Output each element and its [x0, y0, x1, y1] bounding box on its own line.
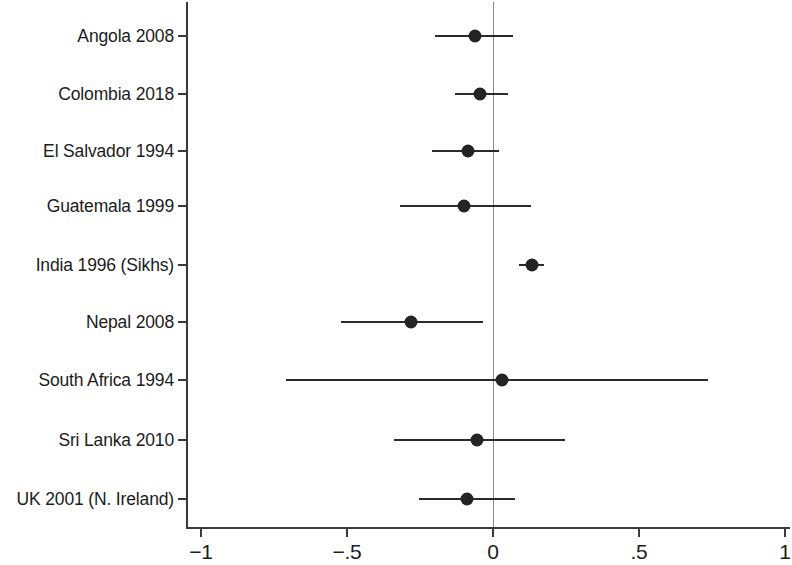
point-estimate-6: [495, 374, 508, 387]
zero-reference-line: [493, 2, 494, 527]
point-estimate-1: [473, 88, 486, 101]
y-axis-tick: [178, 439, 187, 441]
x-axis-tick: [200, 529, 202, 537]
y-axis-tick: [178, 93, 187, 95]
category-label-3: Guatemala 1999: [47, 196, 174, 217]
category-label-1: Colombia 2018: [58, 84, 174, 105]
x-axis-tick: [346, 529, 348, 537]
point-estimate-0: [469, 30, 482, 43]
x-axis-line: [186, 527, 790, 529]
category-label-6: South Africa 1994: [38, 370, 174, 391]
point-estimate-7: [470, 434, 483, 447]
y-axis-tick: [178, 205, 187, 207]
y-axis-tick: [178, 35, 187, 37]
x-axis-tick-label: 1: [779, 540, 790, 564]
forest-plot: −1−.50.51Angola 2008Colombia 2018El Salv…: [0, 0, 792, 565]
point-estimate-3: [457, 200, 470, 213]
category-label-2: El Salvador 1994: [43, 141, 174, 162]
point-estimate-4: [526, 259, 539, 272]
x-axis-tick: [492, 529, 494, 537]
point-estimate-5: [405, 316, 418, 329]
category-label-5: Nepal 2008: [86, 312, 174, 333]
category-label-7: Sri Lanka 2010: [58, 430, 174, 451]
x-axis-tick-label: −.5: [333, 540, 362, 564]
x-axis-tick-label: .5: [631, 540, 648, 564]
x-axis-tick: [784, 529, 786, 537]
y-axis-tick: [178, 150, 187, 152]
category-label-4: India 1996 (Sikhs): [36, 255, 174, 276]
x-axis-tick-label: −1: [189, 540, 212, 564]
y-axis-tick: [178, 321, 187, 323]
category-label-0: Angola 2008: [77, 26, 174, 47]
y-axis-tick: [178, 498, 187, 500]
category-label-8: UK 2001 (N. Ireland): [17, 489, 175, 510]
y-axis-tick: [178, 264, 187, 266]
x-axis-tick: [638, 529, 640, 537]
x-axis-tick-label: 0: [487, 540, 498, 564]
point-estimate-8: [460, 493, 473, 506]
y-axis-tick: [178, 379, 187, 381]
point-estimate-2: [462, 145, 475, 158]
